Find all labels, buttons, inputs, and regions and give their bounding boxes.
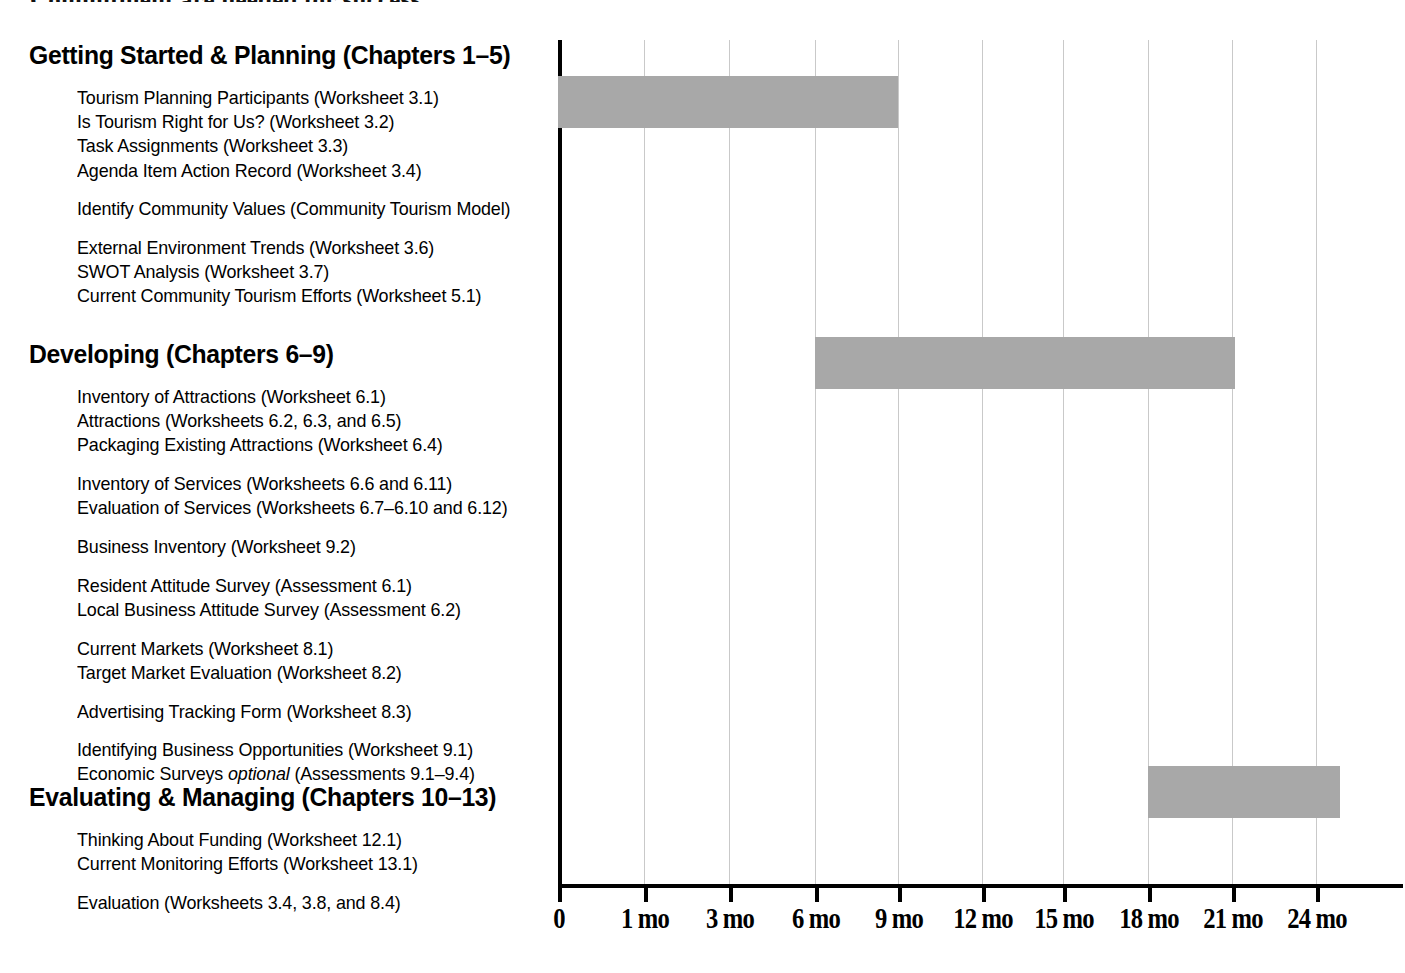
task-item: Evaluation (Worksheets 3.4, 3.8, and 8.4… xyxy=(77,894,401,912)
gridline-6mo xyxy=(815,40,816,892)
section-heading-2: Developing (Chapters 6–9) xyxy=(29,342,334,368)
chart-plot-area: 01 mo3 mo6 mo9 mo12 mo15 mo18 mo21 mo24 … xyxy=(558,0,1405,973)
gantt-bar-2 xyxy=(815,337,1235,389)
tick-24mo xyxy=(1316,888,1320,902)
task-list-column: Getting Started & Planning (Chapters 1–5… xyxy=(0,0,558,973)
gridline-18mo xyxy=(1148,40,1149,892)
tick-9mo xyxy=(898,888,902,902)
tick-label-18mo: 18 mo xyxy=(1111,903,1186,933)
task-item: External Environment Trends (Worksheet 3… xyxy=(77,239,434,257)
gridline-3mo xyxy=(729,40,730,892)
x-axis-line xyxy=(558,884,1403,888)
tick-0mo xyxy=(558,888,562,902)
task-item: Identify Community Values (Community Tou… xyxy=(77,200,510,218)
y-axis-line xyxy=(558,40,562,888)
task-item: Current Community Tourism Efforts (Works… xyxy=(77,287,481,305)
tick-6mo xyxy=(815,888,819,902)
task-item: Is Tourism Right for Us? (Worksheet 3.2) xyxy=(77,113,394,131)
task-item: Advertising Tracking Form (Worksheet 8.3… xyxy=(77,703,411,721)
task-item: Thinking About Funding (Worksheet 12.1) xyxy=(77,831,402,849)
section-heading-3: Evaluating & Managing (Chapters 10–13) xyxy=(29,785,496,811)
task-item: Current Markets (Worksheet 8.1) xyxy=(77,640,333,658)
task-item: Inventory of Attractions (Worksheet 6.1) xyxy=(77,388,386,406)
task-item: Evaluation of Services (Worksheets 6.7–6… xyxy=(77,499,507,517)
tick-15mo xyxy=(1063,888,1067,902)
tick-label-0mo: 0 xyxy=(521,903,596,933)
gridline-15mo xyxy=(1063,40,1064,892)
task-item: Identifying Business Opportunities (Work… xyxy=(77,741,473,759)
tick-12mo xyxy=(982,888,986,902)
gantt-bar-3 xyxy=(1148,766,1340,818)
task-item: Tourism Planning Participants (Worksheet… xyxy=(77,89,439,107)
tick-label-21mo: 21 mo xyxy=(1195,903,1270,933)
task-item: Target Market Evaluation (Worksheet 8.2) xyxy=(77,664,402,682)
gridline-21mo xyxy=(1232,40,1233,892)
tick-label-9mo: 9 mo xyxy=(861,903,936,933)
tick-label-24mo: 24 mo xyxy=(1279,903,1354,933)
tick-18mo xyxy=(1148,888,1152,902)
tick-3mo xyxy=(729,888,733,902)
gridline-12mo xyxy=(982,40,983,892)
task-item: Resident Attitude Survey (Assessment 6.1… xyxy=(77,577,412,595)
gantt-chart-page: Commitment are needed for success. Getti… xyxy=(0,0,1405,973)
tick-label-1mo: 1 mo xyxy=(607,903,682,933)
task-item: Inventory of Services (Worksheets 6.6 an… xyxy=(77,475,452,493)
tick-label-15mo: 15 mo xyxy=(1026,903,1101,933)
gantt-bar-1 xyxy=(558,76,898,128)
tick-label-3mo: 3 mo xyxy=(692,903,767,933)
task-item: Agenda Item Action Record (Worksheet 3.4… xyxy=(77,162,422,180)
task-item: Packaging Existing Attractions (Workshee… xyxy=(77,436,443,454)
task-item: Economic Surveys optional (Assessments 9… xyxy=(77,765,475,783)
task-item: Local Business Attitude Survey (Assessme… xyxy=(77,601,461,619)
gridline-1mo xyxy=(644,40,645,892)
tick-label-12mo: 12 mo xyxy=(945,903,1020,933)
task-item: Task Assignments (Worksheet 3.3) xyxy=(77,137,348,155)
gridline-24mo xyxy=(1316,40,1317,892)
task-item: Current Monitoring Efforts (Worksheet 13… xyxy=(77,855,418,873)
tick-label-6mo: 6 mo xyxy=(778,903,853,933)
tick-21mo xyxy=(1232,888,1236,902)
task-item: Attractions (Worksheets 6.2, 6.3, and 6.… xyxy=(77,412,401,430)
tick-1mo xyxy=(644,888,648,902)
section-heading-1: Getting Started & Planning (Chapters 1–5… xyxy=(29,43,510,69)
optional-emphasis: optional xyxy=(228,763,290,784)
task-item: SWOT Analysis (Worksheet 3.7) xyxy=(77,263,329,281)
task-item: Business Inventory (Worksheet 9.2) xyxy=(77,538,356,556)
gridline-9mo xyxy=(898,40,899,892)
